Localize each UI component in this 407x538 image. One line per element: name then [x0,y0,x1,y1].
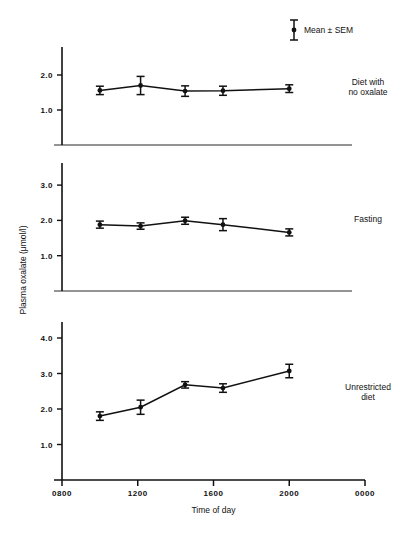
data-point-marker [221,222,226,227]
plot-canvas: 1.02.0Diet withno oxalate1.02.03.0Fastin… [0,0,407,538]
legend-label: Mean ± SEM [304,25,353,35]
y-tick-label: 3.0 [40,181,53,190]
y-tick-label: 3.0 [40,370,53,379]
data-point-marker [183,218,188,223]
panel-label-line2: no oxalate [348,87,387,97]
y-tick-label: 4.0 [40,334,53,343]
y-axis-title: Plasma oxalate (μmol/l) [18,225,28,314]
data-point-marker [287,86,292,91]
data-point-marker [287,230,292,235]
data-point-marker [138,83,143,88]
data-point-marker [97,222,102,227]
panel-label-line1: Diet with [352,77,385,87]
legend-marker-icon [292,28,297,33]
data-point-marker [183,89,188,94]
x-tick-label: 1600 [204,489,224,498]
y-tick-label: 1.0 [40,441,53,450]
x-tick-label: 0000 [355,489,375,498]
panel-diet-with-no-oxalate: 1.02.0Diet withno oxalate [40,47,388,145]
x-axis-title: Time of day [191,505,236,515]
data-series-line [100,86,289,92]
data-point-marker [221,386,226,391]
x-tick-label: 1200 [128,489,148,498]
data-point-marker [97,88,102,93]
panel-fasting: 1.02.03.0Fasting [40,163,382,291]
y-tick-label: 1.0 [40,252,53,261]
panel-label-line2: diet [361,392,375,402]
data-point-marker [138,224,143,229]
y-tick-label: 2.0 [40,71,53,80]
data-point-marker [138,405,143,410]
y-tick-label: 2.0 [40,216,53,225]
legend: Mean ± SEM [290,20,353,40]
x-tick-label: 2000 [279,489,299,498]
panel-label-line1: Unrestricted [345,382,391,392]
panel-unrestricted-diet: 1.02.03.04.0Unrestricteddiet [40,322,391,480]
data-series-line [100,371,289,416]
x-tick-label: 0800 [52,489,72,498]
y-tick-label: 2.0 [40,405,53,414]
data-point-marker [183,382,188,387]
data-series-line [100,221,289,233]
panel-label-line1: Fasting [354,214,382,224]
data-point-marker [221,88,226,93]
x-axis-ticks: 08001200160020000000 [52,480,375,498]
y-tick-label: 1.0 [40,106,53,115]
data-point-marker [97,414,102,419]
figure-container: 1.02.0Diet withno oxalate1.02.03.0Fastin… [0,0,407,538]
data-point-marker [287,369,292,374]
